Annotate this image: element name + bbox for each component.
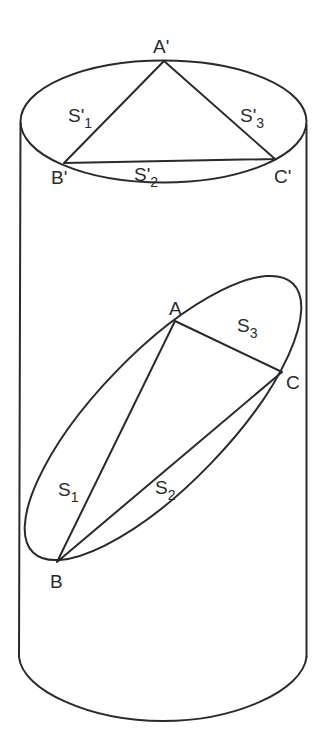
section-ellipse — [0, 238, 319, 599]
label-a: A — [169, 298, 182, 319]
label-s-prime-1: S'1 — [68, 105, 92, 131]
label-s2: S2 — [155, 477, 176, 503]
label-c-prime: C' — [274, 166, 291, 187]
label-b: B — [50, 571, 63, 592]
label-s-prime-3: S'3 — [240, 105, 264, 131]
label-c: C — [286, 372, 300, 393]
label-s1: S1 — [58, 479, 79, 505]
cylinder-bottom-arc — [19, 657, 307, 721]
cylinder-left-edge — [19, 123, 21, 657]
triangle-abc — [57, 321, 282, 562]
label-s3: S3 — [237, 315, 258, 341]
label-s-prime-2: S'2 — [134, 164, 158, 190]
label-b-prime: B' — [51, 167, 67, 188]
cylinder-triangle-diagram: A' B' C' S'1 S'2 S'3 A B C S1 S2 S3 — [0, 0, 319, 746]
tilted-section — [0, 238, 319, 599]
label-a-prime: A' — [153, 36, 169, 57]
